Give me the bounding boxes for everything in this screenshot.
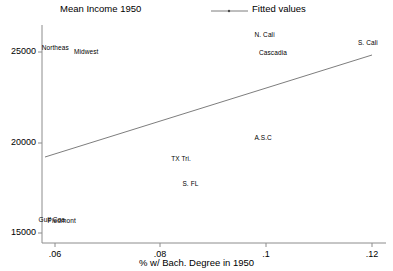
scatter-point-label: A.S.C (254, 134, 271, 141)
y-axis-tick-label-20000: 20000 (0, 137, 36, 147)
scatter-point-label: S. Cali (358, 39, 378, 46)
fitted-line-series (45, 55, 372, 157)
fitted-values-line (45, 55, 372, 157)
x-axis-title: % w/ Bach. Degree in 1950 (0, 257, 393, 268)
scatter-point-label: Cascadia (259, 49, 287, 56)
y-axis-tick-label-25000: 25000 (0, 46, 36, 56)
x-axis-ticks (55, 243, 372, 247)
axis-lines (42, 25, 386, 243)
y-axis-ticks (38, 52, 42, 233)
scatter-point-label: S. FL (182, 180, 198, 187)
scatter-point-label: Northeas (42, 44, 69, 51)
scatter-point-label: Midwest (74, 48, 99, 55)
scatter-point-label: Piedmont (48, 217, 76, 224)
chart-container: Mean Income 1950 Fitted values 25000 200… (0, 0, 393, 271)
chart-title: Mean Income 1950 (60, 3, 141, 14)
legend-entry-fitted-values: Fitted values (252, 3, 306, 14)
plot-area-svg (0, 0, 393, 271)
scatter-point-label: TX Tri. (171, 155, 191, 162)
legend-marker-dot (228, 10, 230, 12)
legend-sample (211, 10, 248, 12)
scatter-point-label: N. Cali (255, 31, 275, 38)
y-axis-tick-label-15000: 15000 (0, 227, 36, 237)
